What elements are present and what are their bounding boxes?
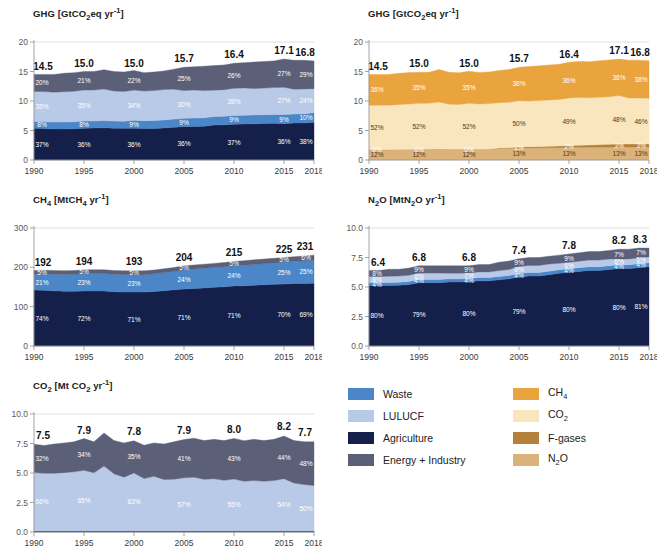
pct-label-agriculture: 37% <box>227 139 240 146</box>
pct-label-agriculture: 36% <box>127 141 140 148</box>
x-tick-label: 1990 <box>360 352 379 362</box>
pct-label-agriculture: 36% <box>277 138 290 145</box>
pct-label-agriculture: 74% <box>35 315 48 322</box>
axis-title-ghg-by-gas: GHG [GtCO2eq yr-1] <box>368 6 459 22</box>
pct-label-lulucf: 7% <box>464 272 474 279</box>
x-tick-label: 2000 <box>125 166 144 176</box>
x-tick-label: 2010 <box>560 166 579 176</box>
x-tick-label: 1990 <box>25 538 44 548</box>
x-tick-label: 2005 <box>175 352 194 362</box>
total-label: 6.8 <box>462 252 476 263</box>
pct-label-fgases: 0% <box>464 146 474 153</box>
plot-co2-by-sector: 0.02.55.07.510.066%65%63%57%55%54%50%32%… <box>0 372 322 549</box>
plot-ch4-by-sector: 010020030074%72%71%71%71%70%69%21%23%23%… <box>0 186 322 366</box>
x-tick-label: 2015 <box>275 166 294 176</box>
pct-label-lulucf: 34% <box>127 102 140 109</box>
x-tick-label: 2010 <box>225 538 244 548</box>
legend-swatch-fgases <box>513 432 539 444</box>
x-tick-label: 2018 <box>640 352 657 362</box>
pct-label-lulucf: 6% <box>614 258 624 265</box>
x-tick-label: 2010 <box>225 352 244 362</box>
pct-label-agriculture: 80% <box>612 304 625 311</box>
legend-item-n2o[interactable]: N2O <box>513 451 586 469</box>
pct-label-waste: 24% <box>177 276 190 283</box>
legend-item-energy_industry[interactable]: Energy + Industry <box>348 451 466 469</box>
legend-item-co2[interactable]: CO2 <box>513 407 586 425</box>
y-tick-label: 5.0 <box>16 468 28 478</box>
x-tick-label: 1990 <box>360 166 379 176</box>
total-label: 7.7 <box>298 427 312 438</box>
pct-label-agriculture: 79% <box>412 311 425 318</box>
y-tick-label: 20 <box>354 37 364 47</box>
total-label: 16.4 <box>559 49 579 60</box>
pct-label-energy_industry: 21% <box>77 77 90 84</box>
legend-item-agriculture[interactable]: Agriculture <box>348 429 466 447</box>
legend-column-gases: CH4CO2F-gasesN2O <box>513 385 586 473</box>
pct-label-lulucf: 35% <box>77 102 90 109</box>
pct-label-lulucf: 8% <box>372 276 382 283</box>
y-tick-label: 10 <box>354 96 364 106</box>
y-tick-label: 7.5 <box>16 439 28 449</box>
total-label: 17.1 <box>274 45 294 56</box>
total-label: 8.0 <box>227 424 241 435</box>
legend-item-ch4[interactable]: CH4 <box>513 385 586 403</box>
pct-label-waste: 10% <box>299 114 312 121</box>
plot-n2o-by-sector: 0.02.55.07.510.080%79%80%79%80%80%81%4%4… <box>335 186 657 366</box>
pct-label-agriculture: 71% <box>177 314 190 321</box>
x-tick-label: 2005 <box>175 166 194 176</box>
pct-label-energy_industry: 35% <box>127 453 140 460</box>
panel-n2o-by-sector: N2O [MtN2O yr-1]0.02.55.07.510.080%79%80… <box>335 186 657 366</box>
y-tick-label: 10.0 <box>346 223 363 233</box>
pct-label-lulucf: 50% <box>299 505 312 512</box>
axis-title-n2o-by-sector: N2O [MtN2O yr-1] <box>368 192 445 208</box>
y-tick-label: 0.0 <box>351 341 363 351</box>
total-label: 193 <box>126 256 143 267</box>
pct-label-agriculture: 38% <box>299 138 312 145</box>
pct-label-waste: 8% <box>79 121 89 128</box>
y-tick-label: 0 <box>23 155 28 165</box>
pct-label-fgases: 0% <box>372 146 382 153</box>
legend-swatch-co2 <box>513 410 539 422</box>
pct-label-ch4: 36% <box>512 80 525 87</box>
pct-label-ch4: 38% <box>634 76 647 83</box>
pct-label-agriculture: 69% <box>299 311 312 318</box>
pct-label-waste: 23% <box>127 280 140 287</box>
x-tick-label: 1990 <box>25 166 44 176</box>
y-tick-label: 0.0 <box>16 527 28 537</box>
pct-label-energy_industry: 9% <box>514 259 524 266</box>
y-tick-label: 5 <box>23 126 28 136</box>
pct-label-energy_industry: 41% <box>177 455 190 462</box>
panel-ghg-by-sector: GHG [GtCO2eq yr-1]0510152037%36%36%36%37… <box>0 0 322 180</box>
pct-label-lulucf: 65% <box>77 497 90 504</box>
total-label: 7.8 <box>562 240 576 251</box>
pct-label-lulucf: 57% <box>177 501 190 508</box>
legend-label-energy_industry: Energy + Industry <box>383 454 466 466</box>
legend-swatch-n2o <box>513 454 539 466</box>
x-tick-label: 2000 <box>125 352 144 362</box>
y-tick-label: 0 <box>23 341 28 351</box>
legend-label-n2o: N2O <box>548 452 568 467</box>
total-label: 8.2 <box>277 421 291 432</box>
pct-label-n2o: 13% <box>634 150 647 157</box>
x-tick-label: 2015 <box>610 352 629 362</box>
legend-item-waste[interactable]: Waste <box>348 385 466 403</box>
pct-label-energy_industry: 5% <box>37 269 47 276</box>
axis-title-ch4-by-sector: CH4 [MtCH4 yr-1] <box>33 192 109 208</box>
pct-label-waste: 9% <box>129 121 139 128</box>
pct-label-waste: 25% <box>277 269 290 276</box>
y-tick-label: 100 <box>14 302 28 312</box>
figure-root: GHG [GtCO2eq yr-1]0510152037%36%36%36%37… <box>0 0 665 549</box>
y-tick-label: 15 <box>19 67 29 77</box>
pct-label-lulucf: 35% <box>35 103 48 110</box>
pct-label-waste: 24% <box>227 272 240 279</box>
pct-label-lulucf: 8% <box>414 273 424 280</box>
pct-label-fgases: 2% <box>564 143 574 150</box>
pct-label-energy_industry: 44% <box>277 454 290 461</box>
legend-label-lulucf: LULUCF <box>383 410 424 422</box>
legend-item-lulucf[interactable]: LULUCF <box>348 407 466 425</box>
total-label: 15.7 <box>509 53 529 64</box>
x-tick-label: 2018 <box>305 538 322 548</box>
total-label: 215 <box>226 247 243 258</box>
legend-item-fgases[interactable]: F-gases <box>513 429 586 447</box>
x-tick-label: 1995 <box>75 166 94 176</box>
